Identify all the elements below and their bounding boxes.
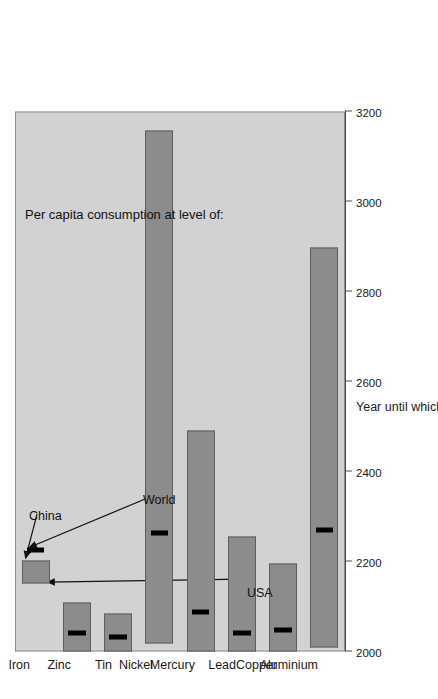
value-tick-label: 2200 xyxy=(356,556,382,568)
value-tick xyxy=(345,200,352,201)
chart-figure: IronZincTinNickelMercuryLeadCopperAlumin… xyxy=(0,0,438,699)
category-label-nickel: Nickel xyxy=(119,657,153,671)
value-tick xyxy=(345,380,352,381)
bar-iron xyxy=(22,560,50,583)
world-marker-nickel xyxy=(151,530,168,535)
plot-title: Per capita consumption at level of: xyxy=(25,206,224,221)
world-marker-zinc xyxy=(68,631,85,636)
bar-copper xyxy=(269,563,297,651)
bar-mercury xyxy=(187,431,215,652)
category-label-aluminium: Aluminium xyxy=(260,657,318,671)
world-marker-tin xyxy=(109,634,126,639)
value-tick xyxy=(345,560,352,561)
world-marker-mercury xyxy=(192,609,209,614)
annotation-world: World xyxy=(143,492,175,506)
world-marker-lead xyxy=(233,630,250,635)
value-tick-label: 2400 xyxy=(356,466,382,478)
value-tick-label: 2000 xyxy=(356,646,382,658)
value-tick-label: 2800 xyxy=(356,286,382,298)
world-marker-iron xyxy=(27,547,44,552)
value-tick-label: 2600 xyxy=(356,376,382,388)
annotation-usa: USA xyxy=(247,585,273,599)
world-marker-aluminium xyxy=(316,527,333,532)
bar-zinc xyxy=(63,602,91,651)
annotation-china: China xyxy=(29,508,62,522)
bar-aluminium xyxy=(310,247,338,647)
value-axis-title: Year until which the resource will last xyxy=(356,399,438,413)
category-label-mercury: Mercury xyxy=(149,657,194,671)
value-tick xyxy=(345,290,352,291)
category-label-iron: Iron xyxy=(8,657,30,671)
category-label-lead: Lead xyxy=(208,657,236,671)
value-tick-label: 3200 xyxy=(356,106,382,118)
value-tick xyxy=(345,110,352,111)
bar-tin xyxy=(104,613,132,651)
category-label-zinc: Zinc xyxy=(47,657,71,671)
world-marker-copper xyxy=(274,627,291,632)
category-label-tin: Tin xyxy=(95,657,112,671)
value-tick xyxy=(345,650,352,651)
value-tick-label: 3000 xyxy=(356,196,382,208)
value-tick xyxy=(345,470,352,471)
